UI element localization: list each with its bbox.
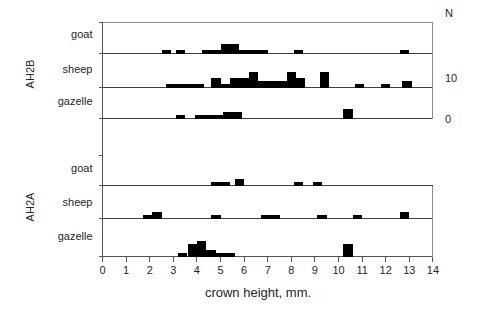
group-label-AH2A: AH2A [24, 192, 36, 221]
histogram-bar [211, 50, 220, 53]
histogram-bar [185, 84, 194, 87]
histogram-bar [239, 78, 248, 87]
row-labels: goatsheepgazellegoatsheepgazelle [58, 28, 93, 242]
x-axis-tick-label: 4 [194, 264, 200, 276]
histogram-bar [270, 215, 279, 218]
histogram-bar [294, 182, 303, 185]
histogram-bar [166, 84, 175, 87]
histogram-bar [249, 72, 258, 88]
crown-height-histogram-chart: 01234567891011121314 goatsheepgazellegoa… [0, 0, 489, 318]
histogram-bar [152, 212, 161, 218]
histogram-bar [221, 84, 230, 87]
x-axis-tick-label: 6 [241, 264, 247, 276]
x-axis-tick-label: 9 [312, 264, 318, 276]
histogram-bar [176, 50, 185, 53]
histogram-bar [261, 215, 270, 218]
histogram-bar [195, 84, 204, 87]
histogram-bar [230, 78, 239, 87]
group-label-AH2B: AH2B [24, 60, 36, 89]
histogram-bar [343, 244, 352, 256]
scale-label-0: 0 [445, 113, 451, 125]
scale-labels: N100 [445, 7, 457, 125]
histogram-bar [197, 241, 206, 257]
chart-frame [99, 23, 433, 257]
histogram-bar [211, 182, 220, 185]
histogram-bar [223, 112, 232, 118]
histogram-bar [249, 50, 258, 53]
chart-bars-layer [143, 44, 412, 256]
x-axis-tick-label: 8 [288, 264, 294, 276]
histogram-bar [353, 215, 362, 218]
histogram-bar [320, 72, 329, 88]
histogram-bar [162, 50, 171, 53]
x-axis-tick-label: 13 [403, 264, 415, 276]
histogram-bar [294, 50, 303, 53]
histogram-bar [313, 182, 322, 185]
x-axis-tick-label: 3 [170, 264, 176, 276]
histogram-bar [402, 81, 411, 87]
x-axis-title: crown height, mm. [205, 285, 311, 300]
x-axis-tick-label: 12 [380, 264, 392, 276]
histogram-bar [400, 50, 409, 53]
histogram-bar [188, 244, 197, 256]
histogram-bar [235, 179, 244, 185]
histogram-bar [204, 115, 213, 118]
histogram-bar [355, 84, 364, 87]
histogram-bar [216, 253, 225, 256]
row-label-gazelle: gazelle [58, 230, 93, 242]
n-axis-label: N [445, 7, 453, 19]
histogram-bar [225, 253, 234, 256]
histogram-bar [221, 44, 230, 53]
x-axis-tick-labels: 01234567891011121314 [99, 264, 439, 276]
histogram-bar [296, 78, 305, 87]
row-label-gazelle: gazelle [58, 95, 93, 107]
x-axis-tick-label: 11 [356, 264, 367, 276]
row-label-sheep: sheep [63, 196, 93, 208]
histogram-bar [202, 50, 211, 53]
x-axis-tick-label: 1 [123, 264, 129, 276]
histogram-bar [176, 115, 185, 118]
histogram-bar [258, 81, 267, 87]
histogram-bar [343, 109, 352, 118]
histogram-bar [258, 50, 267, 53]
histogram-bar [277, 81, 286, 87]
x-axis-tick-label: 0 [99, 264, 105, 276]
x-axis-ticks [103, 257, 433, 262]
x-axis-tick-label: 5 [217, 264, 223, 276]
row-label-goat: goat [71, 162, 92, 174]
row-label-goat: goat [71, 28, 92, 40]
histogram-bar [211, 215, 220, 218]
histogram-bar [400, 212, 409, 218]
histogram-bar [195, 115, 204, 118]
x-axis-tick-label: 2 [147, 264, 153, 276]
histogram-bar [143, 215, 152, 218]
histogram-bar [268, 81, 277, 87]
histogram-bar [317, 215, 326, 218]
x-axis-tick-label: 14 [427, 264, 439, 276]
x-axis-tick-label: 10 [332, 264, 344, 276]
histogram-bar [178, 253, 187, 256]
histogram-bar [213, 115, 222, 118]
histogram-bar [230, 44, 239, 53]
histogram-bar [211, 78, 220, 87]
histogram-bar [287, 72, 296, 88]
x-axis-tick-label: 7 [265, 264, 271, 276]
group-labels: AH2BAH2A [24, 60, 36, 222]
histogram-bar [206, 250, 215, 256]
chart-canvas: 01234567891011121314 goatsheepgazellegoa… [0, 0, 489, 318]
histogram-bar [221, 182, 230, 185]
row-label-sheep: sheep [63, 63, 93, 75]
histogram-bar [232, 112, 241, 118]
histogram-bar [176, 84, 185, 87]
histogram-bar [239, 50, 248, 53]
scale-label-10: 10 [445, 72, 457, 84]
histogram-bar [381, 84, 390, 87]
